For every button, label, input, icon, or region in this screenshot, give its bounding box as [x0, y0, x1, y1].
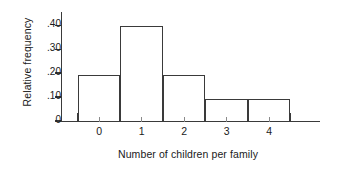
x-tick-mark-major: [205, 113, 206, 122]
x-tick-label: 1: [127, 125, 157, 137]
x-tick-mark-minor: [141, 117, 142, 122]
x-tick-label: 0: [84, 125, 114, 137]
x-tick-mark-major: [120, 113, 121, 122]
x-tick-mark-major: [162, 113, 163, 122]
x-tick-mark-minor: [99, 117, 100, 122]
x-tick-mark-minor: [184, 117, 185, 122]
histogram-figure: Relative frequency 0.10.20.30.40 01234 N…: [0, 0, 364, 172]
x-axis-ticks: 01234: [0, 0, 364, 172]
x-tick-mark-major: [290, 113, 291, 122]
x-tick-mark-major: [247, 113, 248, 122]
x-tick-mark-minor: [269, 117, 270, 122]
x-tick-mark-minor: [226, 117, 227, 122]
x-tick-label: 2: [169, 125, 199, 137]
x-axis-label: Number of children per family: [56, 148, 320, 160]
x-tick-mark-major: [77, 113, 78, 122]
x-tick-label: 3: [212, 125, 242, 137]
x-tick-label: 4: [254, 125, 284, 137]
